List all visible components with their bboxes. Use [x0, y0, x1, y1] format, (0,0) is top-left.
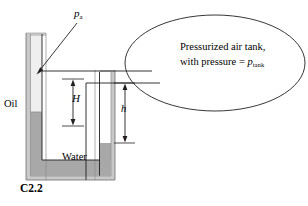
- label-height-h: h: [121, 104, 126, 115]
- manometer-inner-white-region: [42, 36, 100, 160]
- dimension-h-arrowhead-down: [123, 136, 128, 143]
- label-tank-description-line1: Pressurized air tank,: [180, 42, 265, 53]
- label-height-H: H: [72, 93, 80, 104]
- label-water: Water: [62, 152, 87, 163]
- figure-container: pa Oil H h Water Pressurized air tank, w…: [0, 0, 308, 206]
- label-tank-pressure-prefix: with pressure =: [180, 56, 247, 67]
- label-pa-subscript: a: [80, 13, 83, 20]
- figure-reference-label: C2.2: [20, 183, 43, 195]
- label-tank-pressure-subscript: tank: [253, 61, 265, 68]
- manometer-diagram-svg: [0, 0, 308, 206]
- left-tube-oil-column: [31, 36, 43, 112]
- label-tank-description-line2: with pressure = ptank: [180, 57, 264, 68]
- label-atmospheric-pressure: pa: [74, 8, 83, 21]
- label-oil: Oil: [4, 99, 17, 110]
- dimension-h-arrowhead-up: [123, 84, 128, 91]
